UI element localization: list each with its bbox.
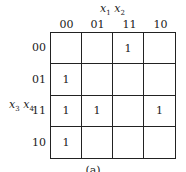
kmap-cell bbox=[113, 96, 144, 127]
column-label: 11 bbox=[114, 18, 145, 31]
column-label: 01 bbox=[82, 18, 113, 31]
kmap-cell bbox=[113, 64, 144, 95]
column-variables-label: x1 x2 bbox=[100, 2, 125, 17]
kmap-cell bbox=[144, 64, 175, 95]
kmap-cell: 1 bbox=[51, 127, 82, 158]
row-label: 11 bbox=[24, 104, 46, 117]
kmap-cell bbox=[144, 33, 175, 64]
kmap-cell bbox=[82, 127, 113, 158]
kmap-cell: 1 bbox=[51, 64, 82, 95]
kmap-cell bbox=[51, 33, 82, 64]
figure-caption: (a) bbox=[0, 164, 186, 172]
column-label: 00 bbox=[51, 18, 82, 31]
kmap-cell bbox=[144, 127, 175, 158]
kmap-cell: 1 bbox=[144, 96, 175, 127]
row-label: 10 bbox=[24, 136, 46, 149]
row-label: 01 bbox=[24, 73, 46, 86]
column-label: 10 bbox=[145, 18, 176, 31]
row-label: 00 bbox=[24, 41, 46, 54]
kmap-cell bbox=[113, 127, 144, 158]
karnaugh-map-grid: 1 1 1 1 1 1 bbox=[50, 32, 176, 159]
kmap-cell: 1 bbox=[82, 96, 113, 127]
kmap-cell bbox=[82, 64, 113, 95]
kmap-cell: 1 bbox=[51, 96, 82, 127]
kmap-cell: 1 bbox=[113, 33, 144, 64]
kmap-cell bbox=[82, 33, 113, 64]
